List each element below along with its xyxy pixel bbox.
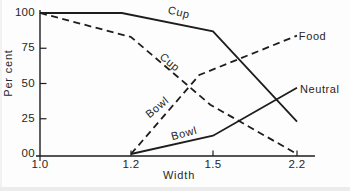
cup-bowl-line-chart: Per cent Width 002550751001.01.21.52.2Cu… — [0, 0, 350, 191]
y-axis-title: Per cent — [2, 49, 14, 96]
x-tick-label-1.5: 1.5 — [198, 158, 228, 170]
series-line-cup-food — [40, 13, 297, 154]
series-label-food: Food — [299, 30, 326, 42]
x-tick-label-2.2: 2.2 — [282, 158, 312, 170]
series-line-bowl-neutral — [131, 88, 297, 154]
x-tick-label-1.2: 1.2 — [116, 158, 146, 170]
x-tick-label-1.0: 1.0 — [25, 158, 55, 170]
y-tick-label-100: 100 — [5, 6, 35, 18]
y-tick-label-50: 50 — [5, 77, 35, 89]
y-tick-label-25: 25 — [5, 112, 35, 124]
x-axis-title: Width — [163, 169, 195, 181]
series-label-neutral: Neutral — [300, 83, 340, 95]
y-tick-label-75: 75 — [5, 41, 35, 53]
